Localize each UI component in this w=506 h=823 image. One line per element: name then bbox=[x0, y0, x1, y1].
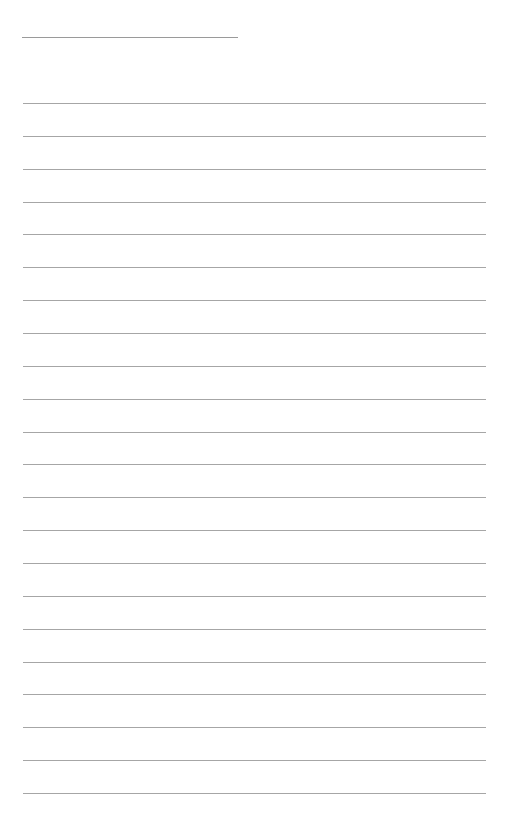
ruled-line bbox=[23, 694, 486, 695]
ruled-line bbox=[23, 300, 486, 301]
ruled-line bbox=[23, 103, 486, 104]
ruled-line bbox=[23, 202, 486, 203]
ruled-line bbox=[23, 662, 486, 663]
ruled-line bbox=[23, 596, 486, 597]
ruled-line bbox=[23, 497, 486, 498]
ruled-line bbox=[23, 366, 486, 367]
ruled-line bbox=[23, 530, 486, 531]
ruled-line bbox=[23, 136, 486, 137]
ruled-line bbox=[23, 399, 486, 400]
ruled-line bbox=[23, 464, 486, 465]
ruled-line bbox=[23, 793, 486, 794]
ruled-line bbox=[23, 727, 486, 728]
ruled-line bbox=[23, 629, 486, 630]
title-line bbox=[22, 37, 238, 38]
ruled-line bbox=[23, 563, 486, 564]
ruled-line bbox=[23, 760, 486, 761]
ruled-line bbox=[23, 169, 486, 170]
ruled-line bbox=[23, 333, 486, 334]
ruled-line bbox=[23, 432, 486, 433]
ruled-line bbox=[23, 234, 486, 235]
ruled-line bbox=[23, 267, 486, 268]
